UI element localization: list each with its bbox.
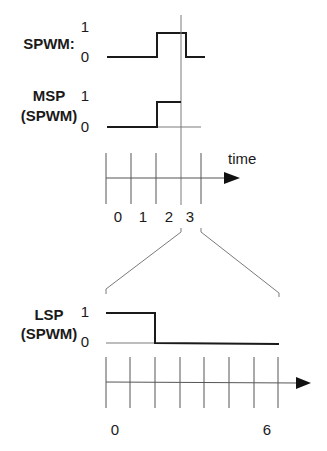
bottom-tick-label: 0 (111, 421, 119, 438)
spwm-low-level: 0 (81, 48, 89, 65)
timing-diagram: SPWM: 1 0 MSP (SPWM) 1 0 time 0 1 2 3 LS… (0, 0, 327, 451)
top-tick-label: 0 (114, 208, 122, 225)
time-axis-label: time (228, 150, 256, 167)
lsp-low-level: 0 (81, 333, 89, 350)
bottom-time-axis (106, 382, 298, 383)
bottom-tick-label: 6 (263, 421, 271, 438)
lsp-waveform (106, 313, 279, 344)
lsp-high-level: 1 (81, 303, 89, 320)
spwm-waveform (107, 33, 205, 57)
msp-low-level: 0 (81, 118, 89, 135)
zoom-line-right (201, 228, 279, 297)
top-tick-label: 2 (165, 208, 173, 225)
msp-label: MSP (33, 87, 66, 104)
bottom-axis-arrowhead (296, 377, 311, 389)
spwm-label: SPWM: (23, 35, 75, 52)
msp-high-level: 1 (81, 87, 89, 104)
msp-label-sub: (SPWM) (21, 107, 78, 124)
bottom-timeline: 0 6 (106, 357, 311, 438)
msp-waveform (107, 102, 181, 127)
lsp-label: LSP (34, 306, 63, 323)
zoom-line-left (106, 228, 181, 294)
top-tick-label: 1 (139, 208, 147, 225)
lsp-label-sub: (SPWM) (21, 325, 78, 342)
top-tick-label: 3 (186, 208, 194, 225)
spwm-high-level: 1 (81, 18, 89, 35)
top-axis-arrowhead (224, 172, 240, 184)
